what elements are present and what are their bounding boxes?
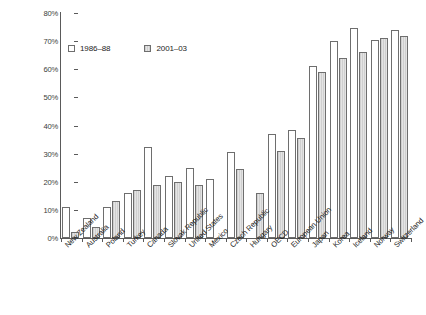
- bar: [400, 36, 408, 239]
- legend-item-1986-88: 1986–88: [68, 44, 110, 53]
- bar: [339, 58, 347, 238]
- x-axis-tick-mark: [123, 238, 124, 242]
- y-axis-tick-label: 10%: [24, 205, 58, 214]
- x-axis-tick-mark: [61, 238, 62, 242]
- bar: [391, 30, 399, 238]
- x-axis-tick-mark: [411, 238, 412, 242]
- bar-group: [185, 13, 206, 238]
- bar-group: [308, 13, 329, 238]
- y-axis-labels: 0%10%20%30%40%50%60%70%80%: [18, 0, 58, 315]
- bar-group: [370, 13, 391, 238]
- bar: [268, 134, 276, 238]
- bar: [62, 207, 70, 238]
- open-square-swatch-icon: [68, 45, 75, 52]
- chart-legend: 1986–88 2001–03: [68, 44, 187, 53]
- y-axis-tick-label: 0%: [24, 234, 58, 243]
- x-axis-tick-mark: [246, 238, 247, 242]
- bar-group: [390, 13, 411, 238]
- bar: [288, 130, 296, 238]
- x-axis-tick-mark: [349, 238, 350, 242]
- bar-group: [205, 13, 226, 238]
- legend-label: 1986–88: [80, 44, 110, 53]
- bar: [350, 28, 358, 238]
- x-axis-tick-mark: [370, 238, 371, 242]
- shaded-square-swatch-icon: [144, 45, 151, 52]
- bar: [359, 52, 367, 238]
- x-axis-tick-mark: [226, 238, 227, 242]
- bar-group: [246, 13, 267, 238]
- bar: [380, 38, 388, 238]
- bar: [144, 147, 152, 238]
- y-axis-tick-label: 70%: [24, 37, 58, 46]
- y-axis-tick-label: 50%: [24, 93, 58, 102]
- x-axis-tick-mark: [185, 238, 186, 242]
- bar: [277, 151, 285, 238]
- bar-group: [267, 13, 288, 238]
- bar-group: [287, 13, 308, 238]
- x-axis-tick-mark: [287, 238, 288, 242]
- y-axis-tick-label: 60%: [24, 65, 58, 74]
- y-axis-tick-label: 30%: [24, 149, 58, 158]
- bar: [309, 66, 317, 238]
- bar-group: [226, 13, 247, 238]
- y-axis-tick-label: 80%: [24, 9, 58, 18]
- x-axis-tick-mark: [164, 238, 165, 242]
- x-axis-tick-mark: [143, 238, 144, 242]
- x-axis-tick-mark: [308, 238, 309, 242]
- bar: [227, 152, 235, 238]
- bar: [297, 138, 305, 238]
- x-axis-tick-mark: [102, 238, 103, 242]
- x-axis-tick-mark: [82, 238, 83, 242]
- legend-item-2001-03: 2001–03: [144, 44, 186, 53]
- bar: [371, 40, 379, 238]
- bar-group: [349, 13, 370, 238]
- y-axis-tick-label: 20%: [24, 177, 58, 186]
- x-axis-tick-mark: [205, 238, 206, 242]
- x-axis-tick-mark: [329, 238, 330, 242]
- legend-label: 2001–03: [156, 44, 186, 53]
- x-axis-tick-mark: [267, 238, 268, 242]
- x-axis-tick-mark: [390, 238, 391, 242]
- bar-group: [329, 13, 350, 238]
- y-axis-tick-label: 40%: [24, 121, 58, 130]
